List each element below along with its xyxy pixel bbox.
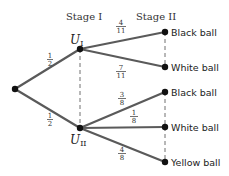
leaf-node-u2-white (162, 124, 168, 130)
u1-label: UI (70, 33, 83, 48)
svg-text:2: 2 (48, 120, 52, 128)
prob-u2-black: 3 8 (118, 91, 126, 107)
leaf-node-u2-yellow (162, 159, 168, 165)
svg-text:8: 8 (120, 154, 124, 162)
probability-tree-diagram: Stage I Stage II UI UII Black ball White… (0, 0, 229, 176)
leaf-label-u2-white: White ball (171, 122, 219, 133)
leaf-node-u2-black (162, 89, 168, 95)
prob-u2-white: 1 8 (130, 109, 138, 125)
u2-label: UII (70, 133, 86, 148)
svg-text:8: 8 (120, 99, 124, 107)
prob-u1-black: 4 11 (116, 19, 126, 35)
node-u2 (77, 125, 83, 131)
leaf-label-u2-black: Black ball (171, 87, 217, 98)
prob-root-u1: 1 2 (47, 52, 53, 68)
svg-text:11: 11 (117, 72, 126, 80)
svg-text:1: 1 (48, 112, 52, 120)
prob-u1-white: 7 11 (116, 64, 126, 80)
prob-root-u2: 1 2 (47, 112, 53, 128)
stage-1-label: Stage I (66, 11, 102, 22)
root-node (12, 86, 18, 92)
svg-text:3: 3 (120, 91, 124, 99)
svg-text:11: 11 (117, 27, 126, 35)
prob-u2-yellow: 4 8 (118, 146, 126, 162)
svg-text:7: 7 (119, 64, 123, 72)
svg-text:1: 1 (132, 109, 136, 117)
leaf-label-u1-white: White ball (171, 62, 219, 73)
stage-2-label: Stage II (136, 11, 176, 22)
leaf-node-u1-white (162, 64, 168, 70)
svg-text:8: 8 (132, 117, 136, 125)
leaf-node-u1-black (162, 29, 168, 35)
svg-text:4: 4 (119, 19, 124, 27)
svg-text:4: 4 (120, 146, 125, 154)
leaf-label-u2-yellow: Yellow ball (170, 157, 220, 168)
edge-u2-white (80, 127, 165, 128)
svg-text:1: 1 (48, 52, 52, 60)
leaf-label-u1-black: Black ball (171, 27, 217, 38)
svg-text:2: 2 (48, 60, 52, 68)
